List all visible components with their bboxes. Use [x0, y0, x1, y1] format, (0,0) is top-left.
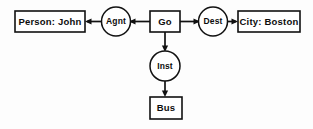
edge-inst-to-instrument: [162, 80, 168, 97]
edge-action-to-dest: [180, 18, 200, 24]
node-dest-role[interactable]: Dest: [199, 7, 228, 36]
node-instrument-label: Bus: [157, 102, 176, 113]
node-city[interactable]: City: Boston: [238, 11, 300, 32]
arrow-head-down: [162, 91, 168, 98]
edge-agent-to-person: [85, 18, 101, 24]
node-instrument[interactable]: Bus: [150, 97, 182, 119]
arrow-head-right: [232, 18, 239, 24]
arrow-head-left: [85, 18, 92, 24]
edge-action-to-inst: [162, 32, 168, 52]
node-inst-role[interactable]: Inst: [150, 51, 180, 81]
diagram-canvas: Person: John Agnt Go Dest City: Boston I…: [0, 0, 313, 129]
node-agent-role[interactable]: Agnt: [102, 7, 131, 36]
edge-action-to-agent: [129, 18, 150, 24]
node-agent-role-label: Agnt: [106, 16, 126, 26]
semantic-network-graph: Person: John Agnt Go Dest City: Boston I…: [0, 0, 313, 129]
node-city-label: City: Boston: [240, 16, 299, 27]
node-person-label: Person: John: [18, 16, 81, 27]
node-dest-role-label: Dest: [204, 16, 223, 26]
node-action[interactable]: Go: [150, 11, 180, 32]
node-person[interactable]: Person: John: [15, 11, 85, 32]
node-inst-role-label: Inst: [157, 61, 173, 71]
node-action-label: Go: [158, 16, 172, 27]
edge-dest-to-city: [228, 18, 238, 24]
